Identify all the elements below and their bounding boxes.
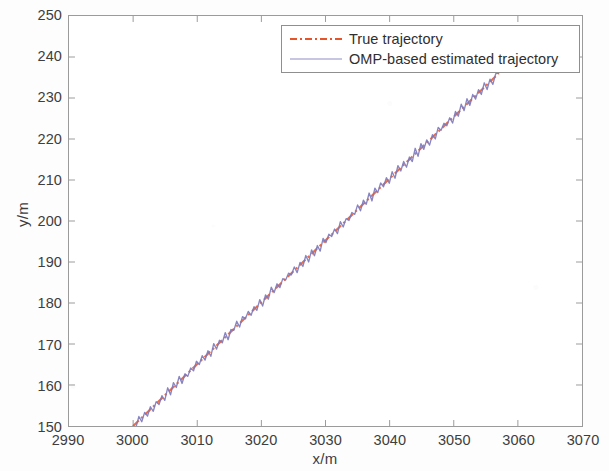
- legend-box: True trajectory OMP-based estimated traj…: [281, 25, 580, 73]
- legend-line-sample-dashdot-icon: [290, 33, 342, 45]
- x-tick-label: 3030: [296, 432, 356, 448]
- y-axis-title: y/m: [14, 185, 31, 245]
- x-axis-title: x/m: [295, 450, 355, 467]
- y-tick-label: 230: [16, 89, 62, 105]
- y-tick-label: 180: [16, 295, 62, 311]
- x-tick-label: 3070: [553, 432, 609, 448]
- figure-canvas: 150160170180190200210220230240250 299030…: [0, 0, 609, 471]
- x-tick-label: 3060: [489, 432, 549, 448]
- y-tick-label: 190: [16, 254, 62, 270]
- x-tick-label: 3000: [102, 432, 162, 448]
- x-tick-label: 3020: [231, 432, 291, 448]
- y-tick-label: 240: [16, 48, 62, 64]
- y-tick-label: 220: [16, 131, 62, 147]
- x-tick-label: 3010: [167, 432, 227, 448]
- plot-svg: [69, 16, 582, 426]
- y-tick-label: 150: [16, 419, 62, 435]
- x-tick-label: 2990: [38, 432, 98, 448]
- axis-tick-marks: [69, 16, 582, 426]
- plot-area: [68, 15, 583, 427]
- data-series-group: [133, 73, 499, 426]
- legend-label-true-trajectory: True trajectory: [349, 31, 443, 47]
- legend-entry-true-trajectory: True trajectory: [290, 30, 573, 48]
- y-tick-label: 170: [16, 337, 62, 353]
- y-tick-label: 250: [16, 7, 62, 23]
- x-tick-label: 3040: [360, 432, 420, 448]
- y-tick-label: 160: [16, 378, 62, 394]
- legend-label-estimated-trajectory: OMP-based estimated trajectory: [349, 51, 558, 67]
- legend-entry-estimated-trajectory: OMP-based estimated trajectory: [290, 50, 573, 68]
- legend-line-sample-solid-icon: [290, 53, 342, 65]
- x-tick-label: 3050: [424, 432, 484, 448]
